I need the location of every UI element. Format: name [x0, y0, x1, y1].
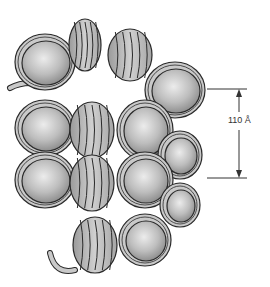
nucleosome	[69, 19, 101, 71]
nucleosome-fiber	[10, 19, 205, 273]
nucleosome	[15, 152, 75, 208]
arrow-up-icon	[236, 89, 242, 97]
nucleosome	[70, 102, 114, 158]
nucleosome	[160, 183, 200, 227]
arrow-down-icon	[236, 170, 242, 178]
nucleosome	[108, 29, 152, 81]
dimension-marker	[207, 89, 247, 178]
dimension-label: 110 Å	[227, 115, 252, 125]
nucleosome	[15, 100, 75, 156]
chromatin-fiber-diagram	[0, 0, 270, 287]
nucleosome	[73, 217, 117, 273]
nucleosome	[15, 34, 75, 90]
nucleosome	[70, 155, 114, 211]
nucleosome	[119, 214, 171, 266]
